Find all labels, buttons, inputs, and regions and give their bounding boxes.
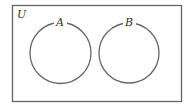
set-b-circle bbox=[99, 23, 159, 83]
set-a-label: A bbox=[55, 16, 64, 29]
venn-diagram: U A B bbox=[0, 0, 187, 106]
set-b-label: B bbox=[124, 16, 133, 29]
universe-label: U bbox=[17, 8, 27, 21]
universe-rectangle bbox=[13, 6, 182, 102]
set-a-circle bbox=[30, 23, 91, 84]
